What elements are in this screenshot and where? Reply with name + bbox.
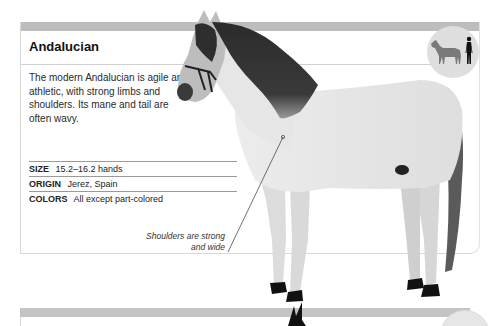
spec-value: 15.2–16.2 hands	[56, 164, 123, 174]
spec-value: Jerez, Spain	[68, 179, 118, 189]
spec-label: ORIGIN	[29, 179, 61, 189]
spec-label: COLORS	[29, 194, 68, 204]
horse-vs-human-scale-icon	[427, 26, 479, 78]
next-card-header-bar	[20, 308, 470, 317]
spec-row-origin: ORIGIN Jerez, Spain	[29, 176, 237, 191]
spec-row-colors: COLORS All except part-colored	[29, 191, 237, 206]
spec-table: SIZE 15.2–16.2 hands ORIGIN Jerez, Spain…	[29, 161, 237, 206]
next-card-edge	[20, 317, 21, 326]
shoulder-callout: Shoulders are strong and wide	[140, 231, 225, 253]
title-divider	[21, 64, 441, 65]
breed-title: Andalucian	[29, 39, 99, 54]
spec-value: All except part-colored	[74, 194, 164, 204]
spec-row-size: SIZE 15.2–16.2 hands	[29, 161, 237, 176]
card-header-bar	[21, 22, 479, 31]
breed-card: Andalucian The modern Andalucian is agil…	[20, 22, 480, 254]
spec-label: SIZE	[29, 164, 49, 174]
next-horse-ears	[280, 302, 310, 326]
breed-description: The modern Andalucian is agile and athle…	[29, 71, 189, 125]
